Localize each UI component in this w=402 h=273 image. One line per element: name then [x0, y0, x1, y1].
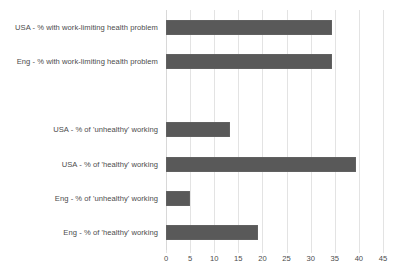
x-tick-mark-20: [262, 250, 263, 253]
bar-row: [166, 147, 383, 181]
bars-layer: [166, 10, 383, 250]
gridline-45: [383, 10, 384, 250]
x-tick-label-25: 25: [282, 254, 290, 263]
bar-row: [166, 181, 383, 215]
plot-area: [166, 10, 383, 250]
x-tick-label-30: 30: [306, 254, 314, 263]
x-tick-mark-10: [214, 250, 215, 253]
bar[interactable]: [166, 54, 332, 69]
x-tick-mark-45: [383, 250, 384, 253]
category-label: Eng - % of 'unhealthy' working: [0, 181, 162, 215]
category-label: USA - % of 'healthy' working: [0, 147, 162, 181]
x-tick-label-5: 5: [188, 254, 192, 263]
x-tick-label-15: 15: [234, 254, 242, 263]
x-tick-label-45: 45: [379, 254, 387, 263]
x-tick-label-35: 35: [331, 254, 339, 263]
x-axis: 051015202530354045: [166, 250, 383, 270]
x-tick-label-20: 20: [258, 254, 266, 263]
x-tick-label-10: 10: [210, 254, 218, 263]
bar[interactable]: [166, 191, 190, 206]
category-axis-labels: USA - % with work-limiting health proble…: [0, 10, 162, 250]
x-tick-label-0: 0: [164, 254, 168, 263]
x-tick-mark-5: [190, 250, 191, 253]
bar-row: [166, 79, 383, 113]
x-tick-mark-35: [335, 250, 336, 253]
category-label: USA - % with work-limiting health proble…: [0, 10, 162, 44]
bar-row: [166, 10, 383, 44]
category-label: Eng - % with work-limiting health proble…: [0, 44, 162, 78]
x-tick-mark-40: [359, 250, 360, 253]
bar[interactable]: [166, 20, 332, 35]
category-label: [0, 79, 162, 113]
bar[interactable]: [166, 122, 230, 137]
bar-row: [166, 44, 383, 78]
bar-row: [166, 113, 383, 147]
x-tick-mark-0: [166, 250, 167, 253]
x-tick-label-40: 40: [355, 254, 363, 263]
x-tick-mark-25: [287, 250, 288, 253]
category-label: Eng - % of 'healthy' working: [0, 216, 162, 250]
bar-row: [166, 216, 383, 250]
x-tick-mark-30: [311, 250, 312, 253]
category-label: USA - % of 'unhealthy' working: [0, 113, 162, 147]
bar-chart: USA - % with work-limiting health proble…: [0, 0, 402, 273]
bar[interactable]: [166, 157, 356, 172]
x-tick-mark-15: [238, 250, 239, 253]
bar[interactable]: [166, 225, 258, 240]
